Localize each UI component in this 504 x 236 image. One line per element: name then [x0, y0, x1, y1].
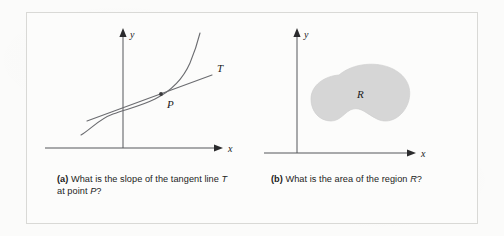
- y-axis-label-b: y: [303, 29, 309, 40]
- panel-b-graph: y x R: [253, 13, 479, 225]
- caption-a-italic-t: T: [222, 174, 228, 184]
- caption-a-marker: (a): [57, 174, 68, 184]
- panel-a-tangent-problem: y x P T (a) What is the slope of the: [27, 13, 253, 225]
- figure-page: y x P T (a) What is the slope of the: [0, 0, 504, 236]
- y-axis-label-a: y: [129, 29, 135, 40]
- figure-frame: y x P T (a) What is the slope of the: [26, 12, 478, 224]
- tangent-line-a: [87, 75, 212, 121]
- y-axis-a: [119, 28, 126, 148]
- caption-b-text-2: ?: [417, 174, 422, 184]
- x-axis-a: [45, 144, 223, 151]
- caption-a-text-1: What is the slope of the tangent line: [68, 174, 221, 184]
- x-axis-label-b: x: [420, 148, 426, 159]
- caption-a-text-3: ?: [96, 186, 101, 196]
- point-p-label: P: [166, 98, 174, 110]
- caption-b-marker: (b): [271, 174, 283, 184]
- x-axis-label-a: x: [227, 143, 233, 154]
- tangency-point-marker-a: [159, 92, 163, 96]
- tangent-t-label: T: [217, 62, 224, 74]
- caption-b-italic-r: R: [410, 174, 417, 184]
- caption-a-text-2: at point: [57, 186, 90, 196]
- region-r-label: R: [356, 88, 364, 100]
- caption-b: (b) What is the area of the region R?: [271, 173, 466, 185]
- x-axis-b: [264, 149, 416, 156]
- y-axis-b: [293, 28, 300, 153]
- caption-b-text-1: What is the area of the region: [283, 174, 410, 184]
- panel-b-area-problem: y x R (b) What is the area of the region…: [253, 13, 479, 225]
- function-curve-a: [81, 33, 200, 135]
- caption-a: (a) What is the slope of the tangent lin…: [57, 173, 237, 197]
